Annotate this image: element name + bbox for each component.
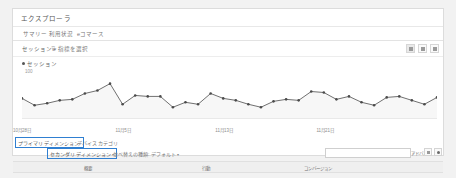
chart-data-point[interactable] xyxy=(58,99,61,102)
page-title: エクスプローラ xyxy=(21,13,71,23)
chart-data-point[interactable] xyxy=(297,99,300,102)
tab-usage[interactable]: 利用状況 xyxy=(47,30,75,38)
table-column-header[interactable]: 概要 xyxy=(84,165,92,171)
x-axis-tick-label: 10月28日 xyxy=(13,127,31,133)
chart-data-point[interactable] xyxy=(184,101,187,104)
chart-data-point[interactable] xyxy=(209,92,212,95)
report-card: エクスプローラ サマリー 利用状況 eコマース セッション▾ ⊽ 指標を選択 セ… xyxy=(12,8,444,156)
sort-type-label: 並べ替えの種類: xyxy=(113,151,149,157)
primary-dimension-selector[interactable]: プライマリ ディメンション: xyxy=(15,137,84,148)
chart-data-point[interactable] xyxy=(373,104,376,107)
chart-data-point[interactable] xyxy=(398,95,401,98)
tab-summary[interactable]: サマリー xyxy=(21,30,49,38)
filter-icon[interactable]: ⊽ xyxy=(51,46,55,52)
table-controls-row: セカンダリ ディメンション▾ 並べ替えの種類: デフォルト▾ ⌕ アドバンス xyxy=(13,148,443,160)
more-view-glyph xyxy=(433,47,437,51)
chart-data-point[interactable] xyxy=(109,82,112,85)
primary-dimension-value[interactable]: デバイス カテゴリ xyxy=(77,139,118,146)
x-axis-labels: 10月28日11月5日11月13日11月21日 xyxy=(13,127,443,137)
tab-ecommerce[interactable]: eコマース xyxy=(75,30,106,38)
chevron-down-icon: ▾ xyxy=(177,152,179,157)
x-axis-tick-label: 11月13日 xyxy=(215,127,233,133)
more-view-button[interactable] xyxy=(430,44,439,53)
chart-data-point[interactable] xyxy=(197,103,200,106)
pie-icon xyxy=(437,151,440,154)
table-display-pie-button[interactable] xyxy=(434,148,442,156)
chart-data-point[interactable] xyxy=(33,104,36,107)
sort-type-value: デフォルト xyxy=(151,151,176,157)
chart-data-point[interactable] xyxy=(360,101,363,104)
chart-data-point[interactable] xyxy=(71,98,74,101)
x-axis-tick-label: 11月21日 xyxy=(316,127,334,133)
secondary-dimension-label: セカンダリ ディメンション xyxy=(50,151,111,157)
chart-svg xyxy=(22,65,437,119)
x-axis-tick-label: 11月5日 xyxy=(115,127,130,133)
chart-plot-area[interactable] xyxy=(22,65,437,119)
chart-data-point[interactable] xyxy=(272,100,275,103)
chart-data-point[interactable] xyxy=(310,90,313,93)
table-column-header[interactable]: コンバージョン xyxy=(304,165,332,171)
chart-data-point[interactable] xyxy=(159,95,162,98)
metric-selector-label: セッション xyxy=(22,46,52,52)
chart-data-point[interactable] xyxy=(260,106,263,109)
chart-view-buttons xyxy=(406,44,439,53)
select-metric-button[interactable]: 指標を選択 xyxy=(58,45,88,53)
primary-dimension-row: プライマリ ディメンション: デバイス カテゴリ xyxy=(13,137,443,147)
sort-type-selector[interactable]: 並べ替えの種類: デフォルト▾ xyxy=(113,150,179,157)
report-tabs: サマリー 利用状況 eコマース xyxy=(13,27,443,41)
chart-data-point[interactable] xyxy=(96,89,99,92)
chart-data-point[interactable] xyxy=(411,99,414,102)
search-input[interactable] xyxy=(325,148,411,158)
table-display-grid-button[interactable] xyxy=(424,148,432,156)
chart-data-point[interactable] xyxy=(234,99,237,102)
sessions-line-chart: セッション 100 xyxy=(13,57,443,127)
chart-data-point[interactable] xyxy=(423,103,426,106)
metric-control-row: セッション▾ ⊽ 指標を選択 xyxy=(13,41,443,57)
secondary-dimension-selector[interactable]: セカンダリ ディメンション▾ xyxy=(47,148,117,159)
chart-data-point[interactable] xyxy=(285,98,288,101)
chart-data-point[interactable] xyxy=(323,91,326,94)
table-column-header[interactable]: 行動 xyxy=(202,165,210,171)
chart-data-point[interactable] xyxy=(247,103,250,106)
chart-area-fill xyxy=(22,84,437,119)
chart-data-point[interactable] xyxy=(84,92,87,95)
chart-view-button[interactable] xyxy=(406,44,415,53)
table-display-buttons xyxy=(424,148,442,156)
chart-data-point[interactable] xyxy=(146,95,149,98)
grid-icon xyxy=(427,151,430,154)
chart-data-point[interactable] xyxy=(222,97,225,100)
chart-data-point[interactable] xyxy=(335,98,338,101)
title-row: エクスプローラ xyxy=(13,9,443,27)
chart-data-point[interactable] xyxy=(121,103,124,106)
table-view-button[interactable] xyxy=(418,44,427,53)
chart-data-point[interactable] xyxy=(385,96,388,99)
page-background: エクスプローラ サマリー 利用状況 eコマース セッション▾ ⊽ 指標を選択 セ… xyxy=(0,0,456,178)
chart-view-glyph xyxy=(409,47,413,51)
chart-data-point[interactable] xyxy=(134,94,137,97)
chart-data-point[interactable] xyxy=(46,102,49,105)
chart-data-point[interactable] xyxy=(172,106,175,109)
table-header-row: 概要行動コンバージョン xyxy=(13,161,443,173)
table-view-glyph xyxy=(421,47,425,51)
chart-data-point[interactable] xyxy=(348,95,351,98)
